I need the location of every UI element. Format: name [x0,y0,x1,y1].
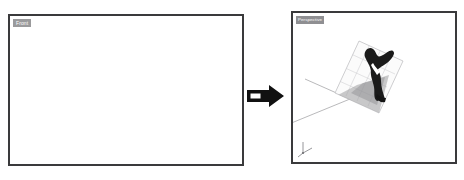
axis-origin-dot [302,152,304,154]
viewport-perspective[interactable]: Perspective [291,11,457,164]
right-arrow-icon [247,85,285,107]
viewport-front-label[interactable]: Front [13,19,31,27]
axis-y-line [303,148,312,153]
axis-gizmo [297,139,319,159]
arrow-notch [251,94,261,99]
viewport-front[interactable]: Front [8,14,244,166]
transition-arrow [247,85,285,107]
